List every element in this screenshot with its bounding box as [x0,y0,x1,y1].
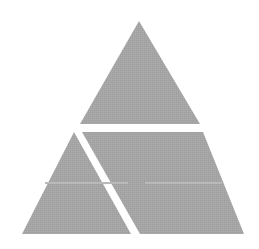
diagram-canvas [0,0,259,249]
triangle-diagram [0,0,259,249]
